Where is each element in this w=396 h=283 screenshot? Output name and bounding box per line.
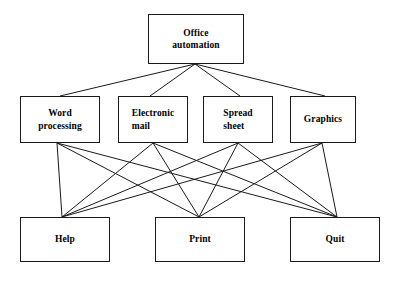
node-help[interactable]: Help xyxy=(20,217,110,262)
connector-root-to-graphics xyxy=(195,64,325,96)
connector-root-to-electronic-mail xyxy=(150,64,195,96)
node-label-electronic-mail: Electronic mail xyxy=(129,107,178,131)
node-label-office-automation: Office automation xyxy=(169,27,222,51)
connector-word-processing-to-quit xyxy=(57,143,337,217)
node-print[interactable]: Print xyxy=(155,217,245,262)
connector-electronic-mail-to-quit xyxy=(153,143,337,217)
node-spread-sheet[interactable]: Spread sheet xyxy=(203,96,273,143)
node-quit[interactable]: Quit xyxy=(290,217,380,262)
connector-spread-sheet-to-quit xyxy=(238,143,337,217)
connector-spread-sheet-to-help xyxy=(62,143,238,217)
node-office-automation[interactable]: Office automation xyxy=(148,14,244,64)
node-label-spread-sheet: Spread sheet xyxy=(220,107,255,131)
node-label-word-processing: Word processing xyxy=(35,107,85,131)
connector-spread-sheet-to-print xyxy=(199,143,238,217)
connector-word-processing-to-help xyxy=(57,143,62,217)
node-label-print: Print xyxy=(186,233,214,245)
node-label-quit: Quit xyxy=(323,233,348,245)
diagram-canvas: Office automationWord processingElectron… xyxy=(0,0,396,283)
node-label-graphics: Graphics xyxy=(301,113,345,125)
connector-electronic-mail-to-help xyxy=(62,143,153,217)
connector-graphics-to-quit xyxy=(322,143,337,217)
node-label-help: Help xyxy=(52,233,78,245)
node-word-processing[interactable]: Word processing xyxy=(20,96,100,143)
node-electronic-mail[interactable]: Electronic mail xyxy=(118,96,188,143)
connector-graphics-to-print xyxy=(199,143,322,217)
connector-root-to-spread-sheet xyxy=(195,64,240,96)
node-graphics[interactable]: Graphics xyxy=(290,96,356,143)
connector-word-processing-to-print xyxy=(57,143,199,217)
connector-root-to-word-processing xyxy=(60,64,195,96)
